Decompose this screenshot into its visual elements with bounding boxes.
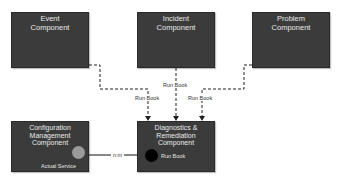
diagnostics-component-title: Diagnostics & Remediation Component	[138, 124, 214, 147]
problem-run-book-label: Run Book	[188, 95, 212, 101]
incident-run-book-label: Run Book	[163, 82, 187, 88]
incident-component[interactable]: Incident Component	[137, 12, 215, 68]
problem-component-title: Problem Component	[253, 15, 329, 32]
run-book-port-label: Run Book	[161, 153, 185, 159]
actual-service-label: Actual Service	[41, 163, 76, 169]
actual-service-port-icon[interactable]	[72, 146, 85, 159]
event-to-diagnostics-connector	[89, 65, 148, 117]
event-run-book-label: Run Book	[135, 95, 159, 101]
event-component[interactable]: Event Component	[11, 12, 89, 68]
configuration-management-component[interactable]: Configuration Management Component Actua…	[11, 121, 89, 172]
run-book-port-icon[interactable]	[145, 149, 158, 162]
diagnostics-remediation-component[interactable]: Diagnostics & Remediation Component Run …	[137, 121, 215, 172]
incident-component-title: Incident Component	[138, 15, 214, 32]
problem-to-diagnostics-connector	[202, 65, 252, 117]
event-component-title: Event Component	[12, 15, 88, 32]
cardinality-label: n:m	[111, 152, 124, 158]
configuration-component-title: Configuration Management Component	[12, 124, 88, 147]
problem-component[interactable]: Problem Component	[252, 12, 330, 68]
